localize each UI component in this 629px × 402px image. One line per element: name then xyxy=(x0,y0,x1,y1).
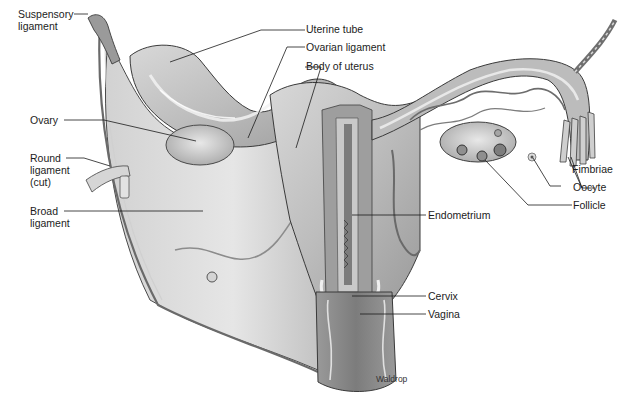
label-body-of-uterus: Body of uterus xyxy=(306,60,374,72)
label-ovarian-ligament: Ovarian ligament xyxy=(306,41,385,53)
label-broad-ligament: Broad ligament xyxy=(30,205,70,229)
label-round-ligament: Round ligament (cut) xyxy=(30,152,70,188)
label-ovary: Ovary xyxy=(30,114,58,126)
label-suspensory-ligament: Suspensory ligament xyxy=(18,8,73,32)
follicle-shape xyxy=(457,145,467,155)
suspensory-ligament-shape xyxy=(88,15,120,64)
label-line: ligament xyxy=(18,20,73,32)
label-line: Broad xyxy=(30,205,70,217)
illustrator-credit: Waldrop xyxy=(376,374,407,384)
label-line: Suspensory xyxy=(18,8,73,20)
label-fimbriae: Fimbriae xyxy=(572,163,613,175)
label-line: Round xyxy=(30,152,70,164)
label-line: ligament xyxy=(30,217,70,229)
label-cervix: Cervix xyxy=(428,290,458,302)
label-line: (cut) xyxy=(30,176,70,188)
label-follicle: Follicle xyxy=(573,199,606,211)
label-uterine-tube: Uterine tube xyxy=(306,23,363,35)
left-ovary-shape xyxy=(166,125,234,165)
label-line: ligament xyxy=(30,164,70,176)
label-endometrium: Endometrium xyxy=(428,209,490,221)
label-vagina: Vagina xyxy=(428,308,460,320)
label-oocyte: Oocyte xyxy=(573,181,606,193)
